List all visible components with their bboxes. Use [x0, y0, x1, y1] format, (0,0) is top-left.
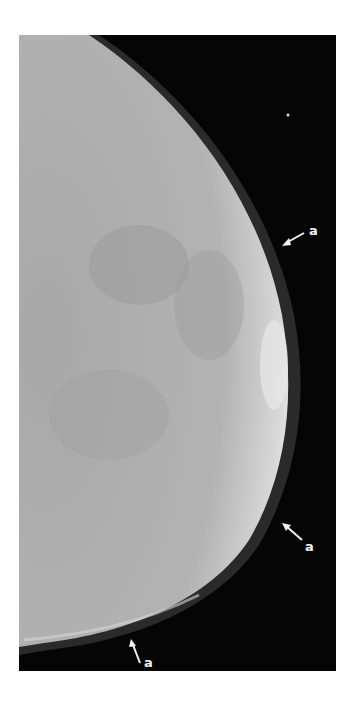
arrow-icon: [133, 645, 140, 663]
annotation-label-lower: a: [305, 540, 314, 553]
annotation-label-bottom: a: [144, 656, 153, 669]
annotation-label-upper: a: [309, 224, 318, 237]
mammogram-image: a a a: [19, 35, 336, 671]
breast-tissue-shape: [19, 35, 336, 671]
